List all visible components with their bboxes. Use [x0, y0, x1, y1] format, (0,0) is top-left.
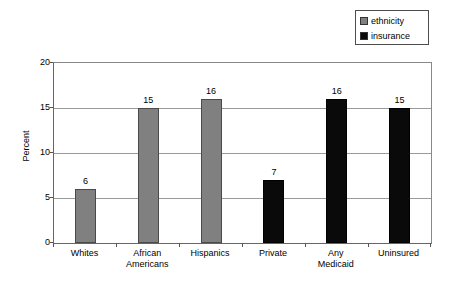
bar-value-label-hispanics: 16	[206, 86, 216, 96]
x-tick-mark-6	[430, 243, 431, 247]
legend-swatch-ethnicity	[360, 17, 368, 25]
bar-whites	[75, 189, 96, 243]
x-tick-mark-2	[179, 243, 180, 247]
y-tick-label-15: 15	[28, 102, 50, 112]
bar-uninsured	[389, 108, 410, 243]
legend-label-insurance: insurance	[371, 31, 410, 41]
y-tick-label-0: 0	[28, 237, 50, 247]
y-tick-label-20: 20	[28, 57, 50, 67]
plot-area: 6151671615	[53, 62, 432, 244]
x-tick-mark-5	[368, 243, 369, 247]
y-tick-label-5: 5	[28, 192, 50, 202]
bar-value-label-whites: 6	[83, 176, 88, 186]
bars-layer: 6151671615	[54, 63, 431, 243]
x-axis-label-private: Private	[259, 248, 287, 259]
legend-item-insurance: insurance	[360, 29, 428, 43]
bar-value-label-private: 7	[271, 167, 276, 177]
x-tick-mark-1	[116, 243, 117, 247]
y-tick-label-10: 10	[28, 147, 50, 157]
bar-value-label-african-americans: 15	[143, 95, 153, 105]
bar-private	[263, 180, 284, 243]
x-tick-mark-0	[53, 243, 54, 247]
legend-item-ethnicity: ethnicity	[360, 14, 428, 28]
x-axis-label-uninsured: Uninsured	[378, 248, 419, 259]
chart-legend: ethnicity insurance	[355, 10, 429, 45]
x-axis-label-whites: Whites	[71, 248, 99, 259]
x-axis-label-hispanics: Hispanics	[191, 248, 230, 259]
bar-african-americans	[138, 108, 159, 243]
bar-value-label-uninsured: 15	[395, 95, 405, 105]
bar-chart: ethnicity insurance Percent 20 15 10 5 0…	[0, 0, 453, 288]
legend-label-ethnicity: ethnicity	[371, 16, 404, 26]
x-tick-mark-4	[305, 243, 306, 247]
x-axis-label-any-medicaid: Any Medicaid	[318, 248, 354, 270]
bar-any-medicaid	[326, 99, 347, 243]
x-axis-label-african-americans: African Americans	[126, 248, 169, 270]
x-tick-mark-3	[242, 243, 243, 247]
legend-swatch-insurance	[360, 32, 368, 40]
bar-value-label-any-medicaid: 16	[332, 86, 342, 96]
bar-hispanics	[201, 99, 222, 243]
